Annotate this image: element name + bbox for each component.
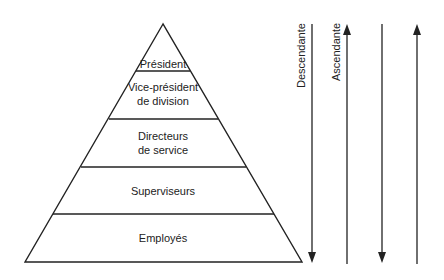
level-employees: Employés <box>139 232 187 245</box>
down-arrow <box>308 24 316 263</box>
ascending-label: Ascendante <box>330 23 342 81</box>
level-supervisors: Superviseurs <box>131 185 195 198</box>
down-arrow <box>378 24 386 263</box>
level-directors: Directeurs <box>138 130 188 143</box>
pyramid-diagram <box>0 0 444 280</box>
level-vice-president: Vice-président <box>128 81 198 94</box>
level-vice-president-line2: de division <box>137 95 189 108</box>
descending-label: Descendante <box>295 23 307 88</box>
up-arrow <box>343 24 351 264</box>
level-president: Président <box>140 58 186 71</box>
up-arrow <box>413 24 421 264</box>
level-directors-line2: de service <box>138 144 188 157</box>
